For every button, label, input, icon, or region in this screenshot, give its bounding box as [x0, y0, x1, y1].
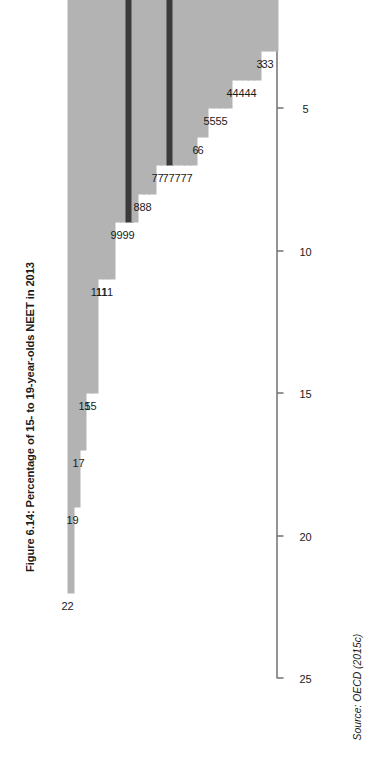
- page-title: Figure 6.14: Percentage of 15- to 19-yea…: [24, 100, 36, 620]
- bar-value-label: 6: [190, 143, 212, 155]
- bar-value-label: 17: [68, 457, 90, 469]
- bar-value-label: 22: [56, 599, 78, 611]
- figure-source: Source: OECD (2015c): [352, 533, 363, 766]
- bar-value-label: 15: [79, 400, 101, 412]
- bar: [271, 0, 278, 52]
- bar-value-label: 11: [97, 286, 119, 298]
- bar-value-label: 7: [178, 172, 200, 184]
- axis-tick: [278, 393, 284, 394]
- bar-value-label: 4: [242, 86, 264, 98]
- axis-tick: [278, 678, 284, 679]
- bar-series: 2219171515111111999988877777776655554444…: [63, 0, 278, 679]
- bar-value-label: 9: [120, 229, 142, 241]
- axis-tick-label: 5: [293, 103, 319, 115]
- bar-value-label: 5: [213, 115, 235, 127]
- bar-value-label: 3: [260, 58, 282, 70]
- axis-tick-label: 15: [293, 388, 319, 400]
- axis-tick: [278, 250, 284, 251]
- axis-tick-label: 20: [293, 530, 319, 542]
- axis-tick: [278, 535, 284, 536]
- axis-tick-label: 10: [293, 245, 319, 257]
- bar-value-label: 19: [62, 514, 84, 526]
- axis-tick-label: 25: [293, 673, 319, 685]
- axis-tick: [278, 108, 284, 109]
- chart-canvas: 0510152025 22191715151111119999888777777…: [63, 0, 318, 679]
- bar-value-label: 8: [137, 200, 159, 212]
